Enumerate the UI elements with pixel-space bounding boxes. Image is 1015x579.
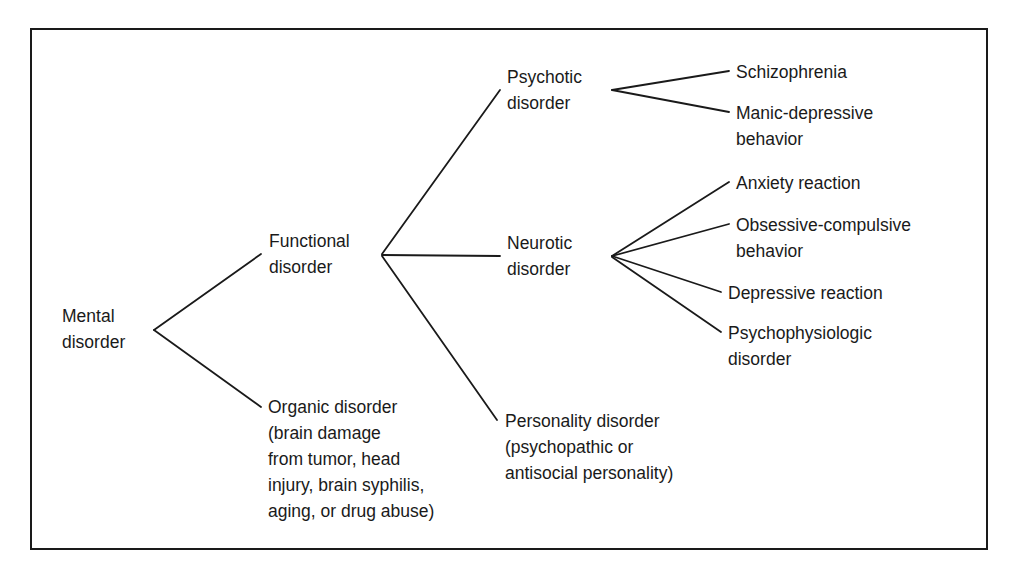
node-manic-depressive: Manic-depressive behavior xyxy=(736,100,873,152)
edge-mental-functional xyxy=(154,254,261,330)
edge-functional-neurotic xyxy=(382,255,500,256)
node-obsessive-compulsive: Obsessive-compulsive behavior xyxy=(736,212,911,264)
node-schizophrenia: Schizophrenia xyxy=(736,59,847,85)
node-neurotic-disorder: Neurotic disorder xyxy=(507,230,572,282)
node-personality-disorder: Personality disorder (psychopathic or an… xyxy=(505,408,673,486)
edge-neurotic-psychophysiologic xyxy=(612,257,721,332)
edge-neurotic-anxiety xyxy=(612,182,729,256)
edge-psychotic-manic xyxy=(612,90,729,112)
node-organic-disorder: Organic disorder (brain damage from tumo… xyxy=(268,394,434,524)
node-psychophysiologic: Psychophysiologic disorder xyxy=(728,320,872,372)
node-mental-disorder: Mental disorder xyxy=(62,303,125,355)
edge-mental-organic xyxy=(154,330,261,407)
node-anxiety-reaction: Anxiety reaction xyxy=(736,170,861,196)
edge-neurotic-depressive xyxy=(612,256,721,292)
node-functional-disorder: Functional disorder xyxy=(269,228,350,280)
node-depressive-reaction: Depressive reaction xyxy=(728,280,883,306)
edge-neurotic-obsessive xyxy=(612,224,729,256)
edge-functional-psychotic xyxy=(382,90,500,254)
edge-psychotic-schizophrenia xyxy=(612,71,729,90)
node-psychotic-disorder: Psychotic disorder xyxy=(507,64,582,116)
